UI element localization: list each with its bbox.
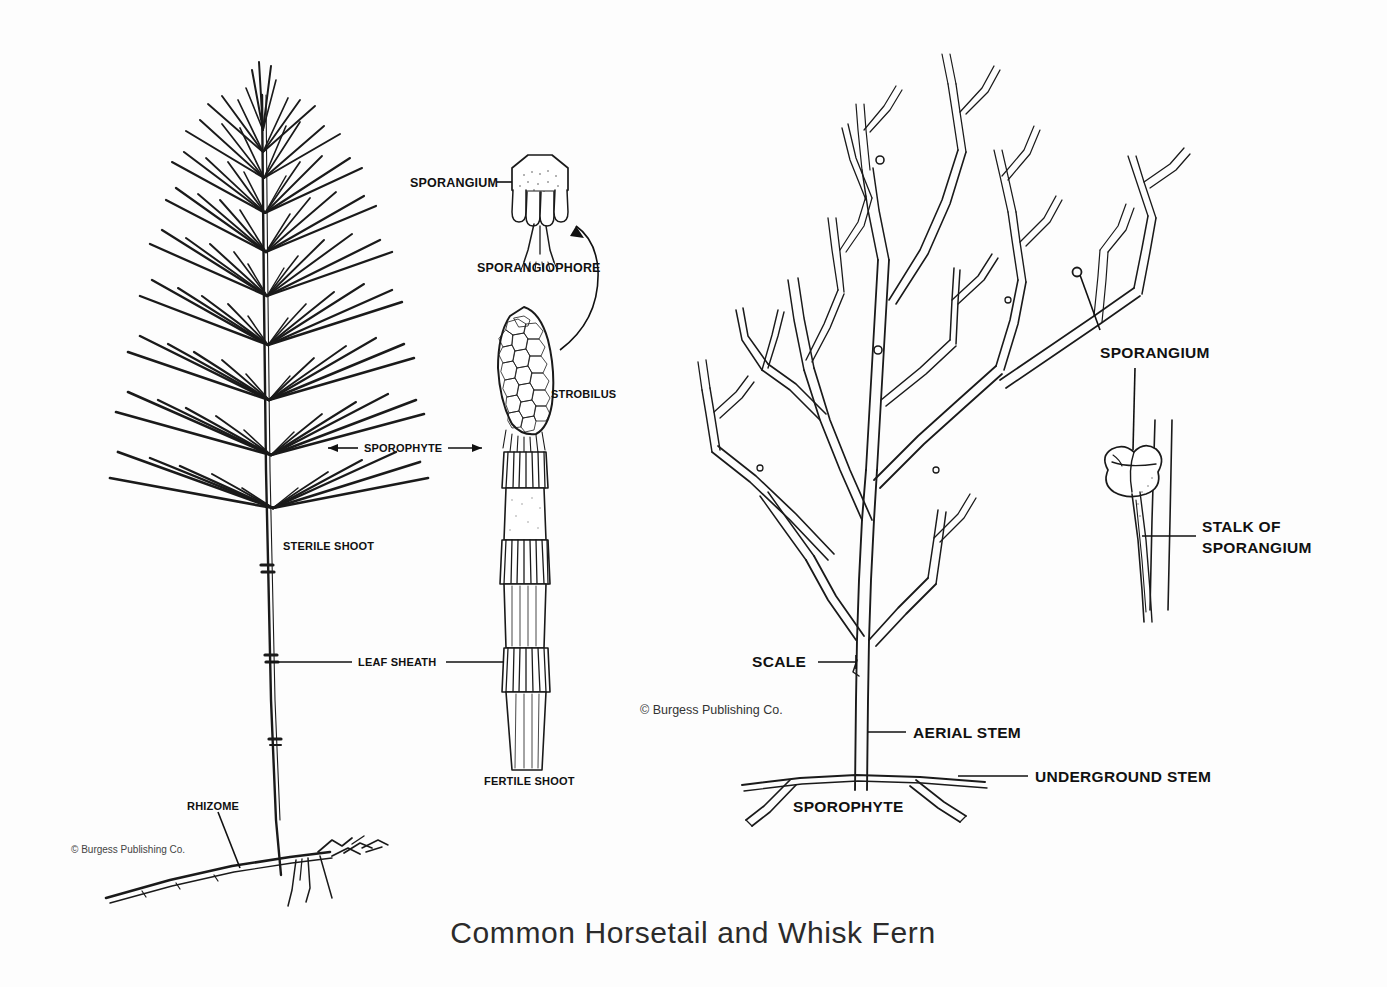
figure-title: Common Horsetail and Whisk Fern bbox=[450, 916, 935, 949]
sporangiophore-label: SPORANGIOPHORE bbox=[477, 261, 601, 275]
botanical-figure: SPORANGIUM SPORANGIOPHORE STROBILUS SPOR… bbox=[0, 0, 1387, 987]
stalk-of-sporangium-label-line1: STALK OF bbox=[1202, 518, 1281, 535]
rhizome-label: RHIZOME bbox=[187, 800, 239, 812]
stalk-of-sporangium-label-line2: SPORANGIUM bbox=[1202, 539, 1312, 556]
sporangium-detail-label: SPORANGIUM bbox=[410, 176, 498, 190]
copyright-left: © Burgess Publishing Co. bbox=[71, 844, 185, 855]
label-sporangium-detail: SPORANGIUM bbox=[410, 176, 512, 190]
sterile-shoot-label: STERILE SHOOT bbox=[283, 540, 374, 552]
scale-label: SCALE bbox=[752, 653, 806, 670]
leaf-sheath-label: LEAF SHEATH bbox=[358, 656, 436, 668]
fertile-shoot-label: FERTILE SHOOT bbox=[484, 775, 575, 787]
copyright-right: © Burgess Publishing Co. bbox=[640, 703, 783, 717]
sporophyte-whiskfern-label: SPOROPHYTE bbox=[793, 798, 904, 815]
strobilus-label: STROBILUS bbox=[551, 388, 616, 400]
sporangium-whiskfern-label: SPORANGIUM bbox=[1100, 344, 1210, 361]
underground-stem-label: UNDERGROUND STEM bbox=[1035, 768, 1211, 785]
sporophyte-horsetail-label: SPOROPHYTE bbox=[364, 442, 442, 454]
aerial-stem-label: AERIAL STEM bbox=[913, 724, 1021, 741]
figure-background bbox=[0, 0, 1387, 987]
